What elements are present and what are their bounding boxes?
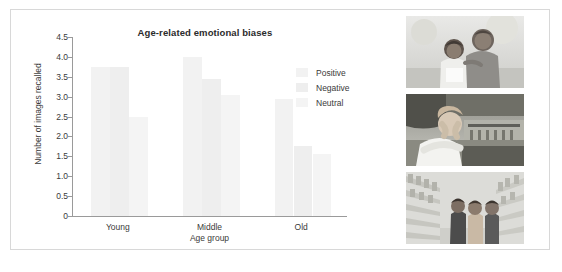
legend-swatch-icon (296, 68, 308, 77)
x-axis-label-old: Old (295, 222, 308, 232)
legend-label: Neutral (316, 98, 343, 108)
bar-young-negative (110, 67, 129, 216)
bar-old-positive (275, 99, 294, 216)
bar-young-positive (91, 67, 110, 216)
tick-label: 1.0 (56, 171, 68, 181)
tick-label: 3.5 (56, 72, 68, 82)
bar-middle-neutral (221, 95, 240, 216)
bars-layer (72, 37, 347, 216)
bar-old-negative (294, 146, 313, 216)
legend-item-neutral: Neutral (296, 95, 350, 110)
positive-photo (406, 16, 524, 88)
tick-label: 4.0 (56, 52, 68, 62)
legend-swatch-icon (296, 98, 308, 107)
x-axis-label-young: Young (106, 222, 130, 232)
bar-middle-positive (183, 57, 202, 216)
tick-label: 0 (63, 211, 68, 221)
bar-old-neutral (313, 154, 332, 216)
negative-photo (406, 94, 524, 166)
bar-young-neutral (129, 117, 148, 216)
legend-label: Negative (316, 83, 350, 93)
figure-root: Age-related emotional biases Number of i… (0, 0, 562, 272)
tick-label: 4.5 (56, 32, 68, 42)
x-axis-line (72, 216, 347, 217)
photo-strip (406, 16, 524, 244)
tick-mark (68, 216, 72, 217)
legend-item-negative: Negative (296, 80, 350, 95)
y-axis-title: Number of images recalled (33, 34, 43, 194)
legend-label: Positive (316, 68, 346, 78)
bar-chart: Age-related emotional biases Number of i… (10, 9, 400, 250)
tick-label: 2.0 (56, 131, 68, 141)
plot-area: 4.54.03.53.02.52.01.51.00.50 YoungMiddle… (72, 37, 347, 216)
legend-swatch-icon (296, 83, 308, 92)
tick-label: 0.5 (56, 191, 68, 201)
tick-label: 2.5 (56, 112, 68, 122)
tick-label: 1.5 (56, 151, 68, 161)
x-axis-title: Age group (72, 233, 347, 243)
tick-label: 3.0 (56, 92, 68, 102)
chart-legend: PositiveNegativeNeutral (296, 65, 350, 110)
neutral-photo (406, 172, 524, 244)
legend-item-positive: Positive (296, 65, 350, 80)
bar-middle-negative (202, 79, 221, 216)
x-axis-label-middle: Middle (197, 222, 222, 232)
